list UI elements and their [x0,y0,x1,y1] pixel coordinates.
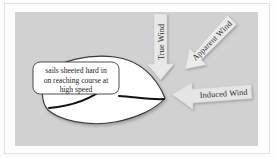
callout-line-2: on reaching course at [44,76,110,85]
diagram-canvas: True Wind Apparent Wind Induced Wind [15,12,258,146]
apparent-wind-label: Apparent Wind [191,19,234,62]
true-wind-label: True Wind [157,24,166,60]
callout-balloon: sails sheeted hard in on reaching course… [33,62,119,94]
callout-line-1: sails sheeted hard in [45,66,107,75]
callout-line-3: high speed [60,85,93,94]
diagram-panel: True Wind Apparent Wind Induced Wind [15,12,258,146]
figure-root: True Wind Apparent Wind Induced Wind [0,0,275,158]
